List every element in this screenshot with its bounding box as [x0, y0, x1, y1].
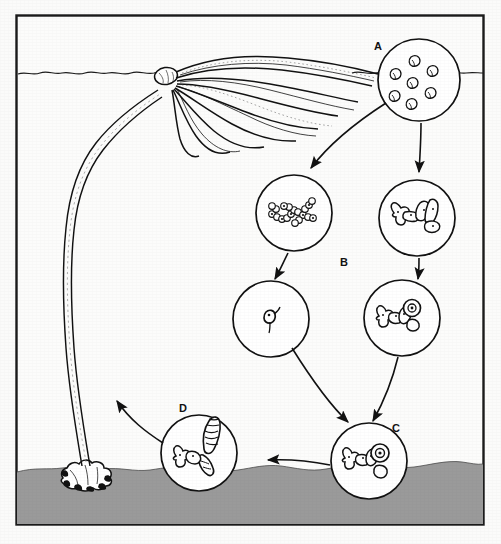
circle-d-young-sporophyte	[161, 415, 237, 491]
label-c: C	[392, 422, 400, 434]
holdfast	[61, 460, 111, 492]
label-a: A	[374, 40, 382, 52]
life-cycle-diagram-svg: A	[0, 0, 501, 544]
label-d: D	[179, 402, 187, 414]
label-b: B	[340, 256, 348, 268]
figure-root: A	[0, 0, 501, 544]
circle-a	[378, 39, 460, 121]
